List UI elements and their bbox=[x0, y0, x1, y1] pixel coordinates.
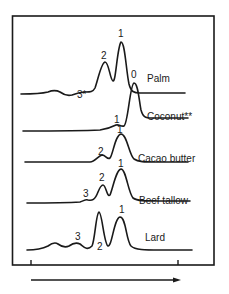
lard-peak-2-label: 2 bbox=[97, 241, 103, 252]
lard-peak-3-label: 3 bbox=[75, 231, 81, 242]
palm-peak-0-label: 0 bbox=[131, 69, 137, 80]
palm-series-label: Palm bbox=[147, 73, 170, 84]
cacao-peak-2-label: 2 bbox=[98, 146, 104, 157]
arrow-head-icon bbox=[173, 278, 181, 283]
palm-peak-3-label: 3* bbox=[77, 89, 87, 100]
beef-peak-2-label: 2 bbox=[99, 172, 105, 183]
lard-trace bbox=[27, 212, 192, 250]
plot-frame bbox=[13, 16, 215, 265]
palm-peak-1-label: 1 bbox=[118, 28, 124, 39]
coconut-trace bbox=[23, 83, 188, 131]
lard-peak-1-label: 1 bbox=[119, 204, 125, 215]
chromatogram-figure: 3* 2 1 0 Palm 1 Coconut** 2 1 Cacao butt… bbox=[0, 0, 229, 294]
palm-peak-2-label: 2 bbox=[101, 50, 107, 61]
beef-peak-3-label: 3 bbox=[83, 188, 89, 199]
beef-peak-1-label: 1 bbox=[118, 158, 124, 169]
coconut-series-label: Coconut** bbox=[147, 111, 192, 122]
cacao-peak-1-label: 1 bbox=[117, 124, 123, 135]
beef-tallow-series-label: Beef tallow bbox=[139, 195, 189, 206]
lard-series-label: Lard bbox=[145, 232, 165, 243]
cacao-butter-series-label: Cacao butter bbox=[138, 153, 196, 164]
chart-canvas: 3* 2 1 0 Palm 1 Coconut** 2 1 Cacao butt… bbox=[0, 0, 229, 294]
